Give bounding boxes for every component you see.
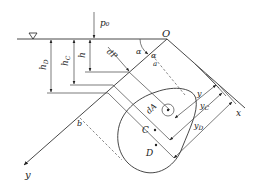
- x-axis-label: x: [236, 108, 241, 118]
- yC-label: yC: [199, 101, 210, 111]
- origin-label: O: [162, 28, 170, 39]
- yD-label: yD: [193, 121, 204, 131]
- y-label: y: [196, 89, 202, 98]
- plate-perp-3: [108, 93, 174, 158]
- x-axis-line: [167, 39, 245, 108]
- point-D-label: D: [145, 148, 153, 158]
- h-label: h: [77, 52, 87, 58]
- ext-line-2: [206, 74, 226, 96]
- alpha-label-1: α: [136, 47, 142, 56]
- hC-label: hC: [60, 55, 71, 66]
- point-b-label: b: [77, 119, 82, 128]
- y-axis-label: y: [24, 169, 31, 180]
- point-C-dot: [154, 129, 156, 131]
- point-C-label: C: [142, 125, 149, 135]
- alpha-label-2: α: [151, 51, 157, 60]
- dA-center-dot: [167, 109, 169, 111]
- hD-label: hD: [38, 59, 49, 70]
- hydrostatic-force-diagram: p₀ O y x α α a b h hC hD dP dA C D y yC …: [0, 0, 258, 191]
- point-a-label: a: [153, 60, 157, 68]
- p0-label: p₀: [100, 18, 110, 28]
- y-axis-line: [24, 39, 167, 165]
- point-D-dot: [155, 144, 157, 146]
- water-level-icon: [29, 33, 37, 39]
- dP-label: dP: [105, 47, 119, 61]
- projection-dash-b: [80, 118, 122, 160]
- dA-label: dA: [144, 102, 158, 116]
